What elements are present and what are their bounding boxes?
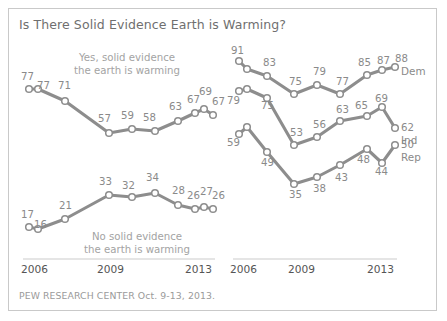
dem-marker [314, 82, 321, 89]
yes-marker [106, 130, 113, 137]
no-series-line [29, 193, 213, 229]
value-label-dem: 77 [336, 76, 349, 87]
ind-marker [364, 113, 371, 120]
value-label-yes: 71 [58, 80, 71, 91]
rep-marker [337, 162, 344, 169]
value-label-dem: 91 [231, 45, 244, 56]
value-label-no: 32 [122, 180, 135, 191]
series-label-dem: Dem [401, 65, 426, 77]
annotation-no-line2: the earth is warming [84, 244, 190, 255]
no-marker [175, 202, 182, 209]
value-label-rep: 49 [261, 157, 274, 168]
value-label-ind: 56 [313, 119, 326, 130]
no-marker [106, 192, 113, 199]
panel-by-party: 91 83 75 79 77 85 87 88 79 75 53 56 63 6… [227, 33, 432, 281]
value-label-ind: 79 [227, 95, 240, 106]
value-label-rep: 35 [289, 189, 302, 200]
no-marker [210, 206, 217, 213]
yes-marker [192, 110, 199, 117]
yes-marker [201, 106, 208, 113]
ind-marker [244, 86, 251, 93]
value-label-dem: 87 [377, 55, 390, 66]
rep-marker [392, 142, 399, 149]
value-label-no: 17 [21, 209, 34, 220]
value-label-yes: 63 [169, 101, 182, 112]
value-label-dem: 79 [313, 66, 326, 77]
dem-marker [264, 73, 271, 80]
value-label-yes: 59 [121, 110, 134, 121]
value-label-ind: 65 [355, 100, 368, 111]
value-label-yes: 77 [21, 71, 34, 82]
chart-footer: PEW RESEARCH CENTER Oct. 9-13, 2013. [19, 290, 215, 301]
value-label-yes: 67 [212, 96, 225, 107]
rep-marker [314, 174, 321, 181]
no-marker [152, 190, 159, 197]
yes-marker [129, 126, 136, 133]
value-label-yes: 58 [143, 112, 156, 123]
value-label-ind: 62 [401, 122, 414, 133]
ind-marker [392, 125, 399, 132]
ind-marker [291, 142, 298, 149]
rep-marker [364, 146, 371, 153]
value-label-rep: 44 [375, 166, 388, 177]
ind-marker [379, 104, 386, 111]
xtick-right-2009: 2009 [288, 263, 315, 275]
value-label-dem: 88 [395, 53, 408, 64]
annotation-no-line1: No solid evidence [92, 231, 182, 242]
value-label-ind: 75 [261, 100, 274, 111]
value-label-yes: 77 [37, 80, 50, 91]
value-label-rep: 43 [335, 172, 348, 183]
chart-figure: Is There Solid Evidence Earth is Warming… [8, 8, 437, 311]
xtick-left-2006: 2006 [21, 263, 48, 275]
series-label-ind: Ind [401, 134, 417, 146]
rep-marker [244, 124, 251, 131]
annotation-no: No solid evidence the earth is warming [77, 231, 197, 256]
xtick-left-2009: 2009 [97, 263, 124, 275]
value-label-no: 28 [172, 185, 185, 196]
xtick-right-2013: 2013 [367, 263, 394, 275]
yes-marker [26, 86, 33, 93]
annotation-yes-line2: the earth is warming [74, 65, 180, 76]
value-label-yes: 69 [199, 86, 212, 97]
rep-marker [291, 181, 298, 188]
annotation-yes-line1: Yes, solid evidence [79, 52, 175, 63]
yes-marker [62, 98, 69, 105]
xtick-left-2013: 2013 [185, 263, 212, 275]
ind-marker [314, 134, 321, 141]
series-label-rep: Rep [401, 151, 421, 163]
chart-title: Is There Solid Evidence Earth is Warming… [19, 17, 286, 32]
xtick-right-2006: 2006 [230, 263, 257, 275]
value-label-yes: 57 [98, 113, 111, 124]
dem-marker [291, 91, 298, 98]
annotation-yes: Yes, solid evidence the earth is warming [67, 52, 187, 77]
ind-marker [337, 118, 344, 125]
value-label-ind: 53 [290, 127, 303, 138]
panel-all-adults: Yes, solid evidence the earth is warming… [15, 33, 221, 281]
dem-marker [392, 64, 399, 71]
dem-marker [236, 58, 243, 65]
value-label-dem: 83 [263, 57, 276, 68]
yes-marker [210, 112, 217, 119]
value-label-no: 26 [212, 190, 225, 201]
value-label-dem: 85 [358, 57, 371, 68]
value-label-no: 33 [99, 176, 112, 187]
value-label-no: 16 [34, 219, 47, 230]
no-marker [62, 216, 69, 223]
dem-marker [337, 91, 344, 98]
value-label-no: 21 [59, 200, 72, 211]
value-label-ind: 69 [375, 93, 388, 104]
dem-marker [379, 67, 386, 74]
value-label-no: 34 [146, 172, 159, 183]
value-label-rep: 48 [357, 154, 370, 165]
no-marker [129, 194, 136, 201]
yes-marker [152, 128, 159, 135]
no-marker [192, 206, 199, 213]
value-label-rep: 38 [313, 183, 326, 194]
no-marker [26, 224, 33, 231]
value-label-rep: 59 [227, 137, 240, 148]
value-label-dem: 75 [289, 76, 302, 87]
yes-marker [175, 118, 182, 125]
dem-marker [364, 72, 371, 79]
dem-marker [244, 66, 251, 73]
value-label-no: 26 [187, 190, 200, 201]
